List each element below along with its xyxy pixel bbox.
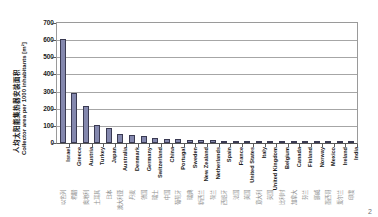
x-label-finland: Finland [307, 147, 313, 167]
bar [106, 128, 112, 143]
y-tick-label-200: 200 [30, 105, 54, 112]
bar-slot [71, 23, 77, 143]
bar [83, 106, 89, 143]
x-label-cn-25: 印度 [347, 190, 355, 200]
bar [152, 138, 158, 143]
bar-slot [291, 23, 297, 143]
x-label-mexico: Mexico [330, 147, 336, 166]
bar-slot [187, 23, 193, 143]
bar [164, 139, 170, 143]
x-label-israel: Israel [65, 147, 71, 162]
x-label-cn-3: 土耳其 [93, 190, 101, 205]
bar-series [57, 23, 357, 143]
solar-collector-area-bar-chart: 人均太阳能集热器安装面积 Collector area per 1000 inh… [0, 0, 378, 217]
bar [348, 141, 354, 143]
x-label-cn-15: 法国 [232, 190, 240, 200]
bar-slot [348, 23, 354, 143]
x-label-cn-19: 比利时 [278, 190, 286, 205]
y-tick-label-700: 700 [30, 19, 54, 26]
bar-slot [60, 23, 66, 143]
bar [244, 141, 250, 143]
bar [314, 141, 320, 143]
bar [94, 125, 100, 143]
bar-slot [325, 23, 331, 143]
x-label-germany: Germany [146, 147, 152, 171]
x-label-sweden: Sweden [192, 147, 198, 168]
x-label-japan: Japan [111, 147, 117, 163]
x-label-cn-16: 美国 [243, 190, 251, 200]
bar [325, 141, 331, 143]
bar-slot [210, 23, 216, 143]
bar [60, 39, 66, 143]
x-label-cn-8: 瑞士 [151, 190, 159, 200]
x-label-cn-14: 西班牙 [220, 190, 228, 205]
x-label-france: France [238, 147, 244, 165]
x-label-turkey: Turkey [99, 147, 105, 165]
bar-slot [141, 23, 147, 143]
page-number: 2 [368, 208, 372, 215]
x-label-cn-20: 加拿大 [290, 190, 298, 205]
x-label-austria: Austria [88, 147, 94, 166]
x-label-cn-23: 墨西哥 [324, 190, 332, 205]
bar [221, 141, 227, 143]
x-label-greece: Greece [76, 147, 82, 166]
x-axis-category-labels-chinese: 以色列希腊奥地利土耳其日本澳大利亚丹麦德国瑞士中国葡萄牙瑞典新西兰荷兰西班牙法国… [57, 190, 359, 212]
bar-slot [233, 23, 239, 143]
bar-slot [117, 23, 123, 143]
bar [129, 135, 135, 143]
x-label-china: China [169, 147, 175, 163]
bar-slot [244, 23, 250, 143]
x-label-new-zealand: New Zealand [203, 147, 209, 181]
x-label-cn-17: 意大利 [255, 190, 263, 205]
bar-slot [221, 23, 227, 143]
bar-slot [164, 23, 170, 143]
bar-slot [279, 23, 285, 143]
bar [291, 141, 297, 143]
x-label-india: India [353, 147, 359, 160]
bar [71, 93, 77, 143]
bar-slot [198, 23, 204, 143]
x-label-cn-22: 挪威 [313, 190, 321, 200]
x-label-cn-7: 德国 [140, 190, 148, 200]
x-label-belgium: Belgium [284, 147, 290, 169]
x-label-italy: Italy [261, 147, 267, 158]
x-label-canada: Canada [296, 147, 302, 167]
x-label-netherlands: Netherlands [215, 147, 221, 179]
y-tick-label-400: 400 [30, 70, 54, 77]
x-label-cn-1: 希腊 [70, 190, 78, 200]
y-axis-title-chinese: 人均太阳能集热器安装面积 [11, 69, 21, 153]
y-tick-label-0: 0 [30, 139, 54, 146]
x-label-cn-12: 新西兰 [197, 190, 205, 205]
bar [117, 134, 123, 143]
bar-slot [337, 23, 343, 143]
y-tick-label-100: 100 [30, 122, 54, 129]
y-axis-title-group: 人均太阳能集热器安装面积 Collector area per 1000 inh… [0, 8, 30, 158]
bar [141, 136, 147, 143]
y-axis-title-english: Collector area per 1000 inhabitants [m²] [21, 42, 27, 155]
x-label-spain: Spain [226, 147, 232, 162]
bar [267, 141, 273, 143]
x-label-cn-6: 丹麦 [128, 190, 136, 200]
bar-slot [175, 23, 181, 143]
x-label-cn-11: 瑞典 [186, 190, 194, 200]
x-label-ireland: Ireland [342, 147, 348, 165]
y-tick-label-500: 500 [30, 53, 54, 60]
bar-slot [314, 23, 320, 143]
x-label-united-states: United States [249, 147, 255, 183]
bar-slot [83, 23, 89, 143]
x-label-cn-2: 奥地利 [82, 190, 90, 205]
y-tick-label-600: 600 [30, 36, 54, 43]
bar-slot [129, 23, 135, 143]
x-label-cn-13: 荷兰 [209, 190, 217, 200]
bar [175, 139, 181, 143]
x-label-cn-18: 英国 [266, 190, 274, 200]
x-label-united-kingdom: United Kingdom [272, 147, 278, 190]
x-label-cn-21: 芬兰 [301, 190, 309, 200]
x-axis-category-labels: IsraelGreeceAustriaTurkeyJapanAustraliaD… [57, 147, 359, 187]
x-label-norway: Norway [319, 147, 325, 167]
y-tick-label-300: 300 [30, 88, 54, 95]
bar [302, 141, 308, 143]
bar [256, 141, 262, 143]
x-label-cn-4: 日本 [105, 190, 113, 200]
x-label-portugal: Portugal [180, 147, 186, 170]
